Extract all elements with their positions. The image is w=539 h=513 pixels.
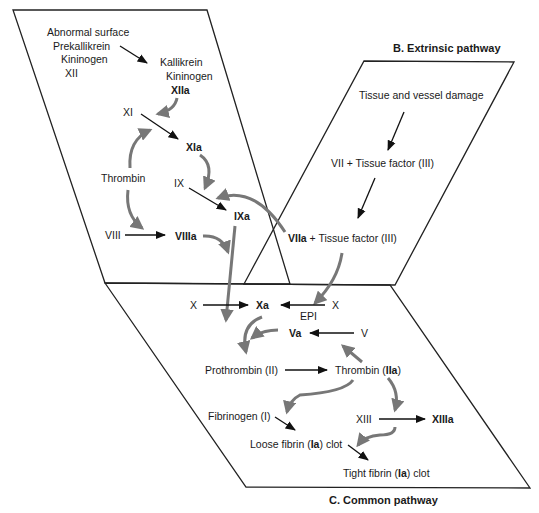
fibrinogen-label: Fibrinogen (I): [208, 410, 270, 422]
arrow-ixa-xa: [226, 226, 235, 320]
arrow-xia-ix: [200, 155, 209, 188]
viia-tissue-factor-label: VIIa + Tissue factor (III): [288, 232, 397, 244]
va-label: Va: [289, 327, 301, 339]
tight-fibrin-clot-label: Tight fibrin (Ia) clot: [343, 467, 430, 479]
loose-fibrin-clot-label: Loose fibrin (Ia) clot: [250, 438, 342, 450]
arrow-prekallikrein-kallikrein: [120, 46, 147, 63]
xa-label: Xa: [256, 299, 269, 311]
common-panel: [105, 283, 530, 488]
extrinsic-title: B. Extrinsic pathway: [393, 42, 501, 54]
arrow-loose-tight: [348, 445, 368, 460]
arrow-damage-vii: [388, 112, 404, 150]
ixa-label: IXa: [234, 210, 250, 222]
arrow-viia-x: [315, 253, 342, 303]
arrow-thrombin-xi: [130, 130, 150, 168]
arrow-thrombin-xiii: [388, 378, 396, 410]
xiia-label: XIIa: [171, 84, 190, 96]
arrow-viiia-xa: [203, 236, 228, 252]
arrow-xiia-xi: [158, 98, 177, 114]
viia-label: VIIa: [288, 232, 307, 244]
arrow-ix-ixa: [189, 188, 226, 210]
viiia-label: VIIIa: [175, 230, 197, 242]
ix-label: IX: [174, 177, 184, 189]
abnormal-surface-label: Abnormal surface: [47, 26, 129, 38]
prothrombin-label: Prothrombin (II): [205, 364, 278, 376]
kallikrein-label: Kallikrein: [160, 56, 203, 68]
common-pathway: X Xa X EPI Va V Prothrombin (II) Thrombi…: [190, 299, 454, 506]
xia-label: XIa: [186, 141, 202, 153]
arrow-thrombin-fibrinogen: [287, 380, 353, 412]
extrinsic-pathway: B. Extrinsic pathway Tissue and vessel d…: [288, 42, 501, 303]
x-left-label: X: [190, 299, 197, 311]
epi-label: EPI: [300, 310, 317, 322]
xiiia-label: XIIIa: [432, 413, 454, 425]
arrow-thrombin-v: [343, 346, 362, 362]
tissue-damage-label: Tissue and vessel damage: [359, 89, 484, 101]
arrow-vii-viia: [358, 178, 375, 218]
prekallikrein-label: Prekallikrein: [53, 40, 110, 52]
v-label: V: [361, 327, 368, 339]
common-title: C. Common pathway: [329, 494, 439, 506]
thrombin-label: Thrombin: [101, 172, 146, 184]
xiii-label: XIII: [356, 413, 372, 425]
kininogen-2-label: Kininogen: [166, 70, 213, 82]
arrow-va-xa: [252, 330, 278, 338]
xi-label: XI: [123, 106, 133, 118]
coagulation-cascade-diagram: Abnormal surface Prekallikrein Kininogen…: [0, 0, 539, 513]
intrinsic-pathway: Abnormal surface Prekallikrein Kininogen…: [47, 26, 285, 320]
viii-label: VIII: [105, 229, 121, 241]
arrow-xi-xia: [141, 114, 178, 139]
arrow-xiiia-clot: [358, 427, 395, 445]
xii-label: XII: [65, 67, 78, 79]
kininogen-label: Kininogen: [61, 53, 108, 65]
arrow-fibrinogen-loose: [275, 417, 295, 430]
x-right-label: X: [332, 299, 339, 311]
vii-tissue-factor-label: VII + Tissue factor (III): [331, 157, 434, 169]
thrombin-iia-label: Thrombin (IIa): [335, 364, 401, 376]
arrow-thrombin-viii: [128, 190, 142, 228]
